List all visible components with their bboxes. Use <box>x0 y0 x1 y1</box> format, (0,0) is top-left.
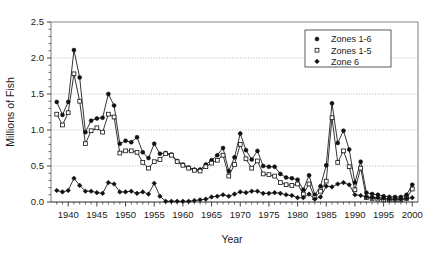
data-point-marker <box>278 172 282 176</box>
x-tick-label: 1975 <box>258 209 279 220</box>
data-point-marker <box>101 130 105 134</box>
chart-legend: Zones 1-6Zones 1-5Zone 6 <box>305 30 391 67</box>
data-point-marker <box>210 161 214 165</box>
data-point-marker <box>141 150 145 154</box>
data-point-marker <box>158 152 162 156</box>
data-point-marker <box>278 181 282 185</box>
data-point-marker <box>347 165 351 169</box>
data-point-marker <box>341 129 345 133</box>
data-point-marker <box>336 141 340 145</box>
x-tick-label: 1990 <box>344 209 365 220</box>
x-tick-label: 1940 <box>58 209 79 220</box>
legend-label: Zones 1-5 <box>331 46 372 56</box>
y-tick-label: 2.5 <box>31 16 44 27</box>
data-point-marker <box>250 158 254 162</box>
data-point-marker <box>250 166 254 170</box>
y-tick-label: 1.0 <box>31 124 44 135</box>
data-point-marker <box>290 176 294 180</box>
data-point-marker <box>284 176 288 180</box>
chart-figure: 0.00.51.01.52.02.5 194019451950195519601… <box>0 0 441 255</box>
data-point-marker <box>129 149 133 153</box>
data-point-marker <box>347 147 351 151</box>
data-point-marker <box>307 173 311 177</box>
data-point-marker <box>244 157 248 161</box>
data-point-marker <box>296 182 300 186</box>
data-point-marker <box>315 37 319 41</box>
data-point-marker <box>78 99 82 103</box>
data-point-marker <box>124 149 128 153</box>
y-tick-label: 0.5 <box>31 160 44 171</box>
x-axis-title: Year <box>221 233 243 245</box>
data-point-marker <box>118 151 122 155</box>
data-point-marker <box>112 104 116 108</box>
x-tick-label: 1985 <box>316 209 337 220</box>
data-point-marker <box>324 179 328 183</box>
data-point-marker <box>319 184 323 188</box>
x-tick-label: 1965 <box>201 209 222 220</box>
data-point-marker <box>233 163 237 167</box>
data-point-marker <box>319 189 323 193</box>
data-point-marker <box>83 130 87 134</box>
data-point-marker <box>141 161 145 165</box>
data-point-marker <box>238 132 242 136</box>
data-point-marker <box>301 188 305 192</box>
data-point-marker <box>60 113 64 117</box>
legend-label: Zones 1-6 <box>331 34 372 44</box>
data-point-marker <box>66 100 70 104</box>
data-point-marker <box>72 48 76 52</box>
data-point-marker <box>330 101 334 105</box>
data-point-marker <box>359 160 363 164</box>
x-tick-label: 2000 <box>402 209 423 220</box>
data-point-marker <box>158 158 162 162</box>
data-point-marker <box>106 92 110 96</box>
data-point-marker <box>336 161 340 165</box>
data-point-marker <box>273 165 277 169</box>
data-point-marker <box>181 163 185 167</box>
data-point-marker <box>89 119 93 123</box>
data-point-marker <box>410 183 414 187</box>
data-point-marker <box>124 139 128 143</box>
data-point-marker <box>221 153 225 157</box>
data-point-marker <box>315 48 319 52</box>
data-point-marker <box>164 152 168 156</box>
data-point-marker <box>284 183 288 187</box>
data-point-marker <box>55 100 59 104</box>
x-tick-label: 1955 <box>144 209 165 220</box>
data-point-marker <box>215 153 219 157</box>
data-point-marker <box>106 112 110 116</box>
data-point-marker <box>267 173 271 177</box>
data-point-marker <box>307 182 311 186</box>
data-point-marker <box>330 116 334 120</box>
y-axis-title-text: Millions of Fish <box>4 77 16 147</box>
y-tick-label: 2.0 <box>31 52 44 63</box>
y-tick-label: 1.5 <box>31 88 44 99</box>
data-point-marker <box>135 135 139 139</box>
data-point-marker <box>112 115 116 119</box>
data-point-marker <box>95 116 99 120</box>
data-point-marker <box>233 155 237 159</box>
data-point-marker <box>244 148 248 152</box>
data-point-marker <box>129 140 133 144</box>
data-point-marker <box>256 159 260 163</box>
data-point-marker <box>61 123 65 127</box>
data-point-marker <box>66 111 70 115</box>
x-tick-label: 1960 <box>172 209 193 220</box>
data-point-marker <box>227 174 231 178</box>
data-point-marker <box>273 174 277 178</box>
data-point-marker <box>353 181 357 185</box>
x-axis-title-text: Year <box>221 233 243 245</box>
data-point-marker <box>101 116 105 120</box>
y-tick-label: 0.0 <box>31 196 44 207</box>
data-point-marker <box>238 143 242 147</box>
data-point-marker <box>296 178 300 182</box>
data-point-marker <box>227 169 231 173</box>
data-point-marker <box>255 149 259 153</box>
x-tick-label: 1945 <box>86 209 107 220</box>
data-point-marker <box>152 142 156 146</box>
data-point-marker <box>170 153 174 157</box>
y-axis-title: Millions of Fish <box>4 77 16 147</box>
data-point-marker <box>72 72 76 76</box>
x-tick-label: 1970 <box>230 209 251 220</box>
data-point-marker <box>152 160 156 164</box>
data-point-marker <box>192 168 196 172</box>
